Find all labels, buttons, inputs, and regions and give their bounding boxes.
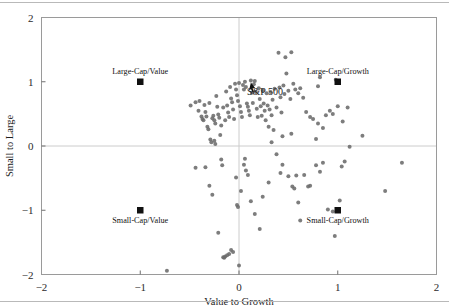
- data-point: [318, 75, 322, 79]
- data-point: [346, 105, 350, 109]
- data-point: [261, 195, 265, 199]
- data-point: [253, 79, 257, 83]
- data-point: [234, 175, 238, 179]
- top-divider-rule: [0, 2, 449, 3]
- anchor-marker: [335, 207, 342, 214]
- x-axis-tick-label: 0: [236, 281, 242, 293]
- scatter-plot: −2−1012−2−1012 Large-Cap/ValueLarge-Cap/…: [0, 0, 449, 307]
- data-point: [247, 109, 251, 113]
- data-point: [228, 85, 232, 89]
- data-point: [278, 171, 282, 175]
- data-point: [308, 184, 312, 188]
- y-axis-tick-label: −1: [22, 204, 34, 216]
- data-point: [271, 98, 275, 102]
- x-axis-tick-label: 2: [434, 281, 440, 293]
- x-axis-tick-label: −2: [36, 281, 48, 293]
- data-point: [216, 231, 220, 235]
- data-point: [226, 111, 230, 115]
- data-point: [249, 199, 253, 203]
- data-point: [348, 145, 352, 149]
- data-point: [234, 87, 238, 91]
- data-point: [338, 199, 342, 203]
- data-point: [194, 100, 198, 104]
- data-point: [211, 114, 215, 118]
- data-point: [264, 118, 268, 122]
- data-point: [237, 264, 241, 268]
- data-point: [230, 100, 234, 104]
- data-point: [266, 104, 270, 108]
- figure-container: −2−1012−2−1012 Large-Cap/ValueLarge-Cap/…: [0, 0, 449, 307]
- annotations-layer: S&P 500: [247, 82, 283, 96]
- data-point: [227, 252, 231, 256]
- data-point: [343, 159, 347, 163]
- data-point: [198, 99, 202, 103]
- data-point: [314, 137, 318, 141]
- data-point: [318, 170, 322, 174]
- data-point: [189, 104, 193, 108]
- y-axis-tick-label: 1: [28, 76, 34, 88]
- data-point: [210, 193, 214, 197]
- data-point: [206, 127, 210, 131]
- data-point: [321, 161, 325, 165]
- data-point: [239, 110, 243, 114]
- bottom-divider-rule: [0, 301, 449, 302]
- data-point: [236, 205, 240, 209]
- data-point: [336, 104, 340, 108]
- data-point: [221, 105, 225, 109]
- data-point: [229, 96, 233, 100]
- data-point: [251, 101, 255, 105]
- data-point: [223, 118, 227, 122]
- data-point: [203, 110, 207, 114]
- data-point: [213, 122, 217, 126]
- x-axis-tick-label: 1: [335, 281, 341, 293]
- data-point: [294, 174, 298, 178]
- data-point: [246, 173, 250, 177]
- data-point: [296, 91, 300, 95]
- anchor-marker: [335, 79, 342, 86]
- data-point: [341, 120, 345, 124]
- data-point: [400, 161, 404, 165]
- data-point: [383, 189, 387, 193]
- data-point: [324, 113, 328, 117]
- anchor-marker: [137, 207, 144, 214]
- data-point: [220, 163, 224, 167]
- data-point: [270, 113, 274, 117]
- data-point: [268, 107, 272, 111]
- data-point: [243, 157, 247, 161]
- data-point: [219, 123, 223, 127]
- data-point: [277, 51, 281, 55]
- data-point: [215, 105, 219, 109]
- data-point: [233, 82, 237, 86]
- data-point: [201, 118, 205, 122]
- data-point: [248, 113, 252, 117]
- data-points-layer: [165, 50, 404, 272]
- y-axis-tick-label: 0: [28, 140, 34, 152]
- data-point: [258, 227, 262, 231]
- data-point: [260, 114, 264, 118]
- data-point: [202, 103, 206, 107]
- data-point: [301, 96, 305, 100]
- data-point: [293, 87, 297, 91]
- data-point: [304, 110, 308, 114]
- data-point: [240, 115, 244, 119]
- data-point: [333, 234, 337, 238]
- data-point: [232, 117, 236, 121]
- anchor-label: Small-Cap/Growth: [307, 216, 369, 225]
- anchor-label: Large-Cap/Value: [112, 67, 168, 76]
- data-point: [360, 134, 364, 138]
- y-axis-tick-label: 2: [28, 12, 34, 24]
- data-point: [280, 163, 284, 167]
- data-point: [280, 134, 284, 138]
- data-point: [256, 115, 260, 119]
- data-point: [282, 92, 286, 96]
- data-point: [235, 93, 239, 97]
- data-point: [275, 105, 279, 109]
- data-point: [242, 163, 246, 167]
- data-point: [331, 210, 335, 214]
- data-point: [214, 94, 218, 98]
- sp500-annotation-label: S&P 500: [247, 86, 283, 97]
- data-point: [244, 168, 248, 172]
- data-point: [238, 104, 242, 108]
- data-point: [321, 126, 325, 130]
- data-point: [267, 181, 271, 185]
